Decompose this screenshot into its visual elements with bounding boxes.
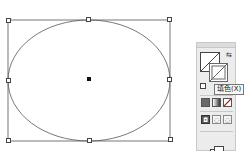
divider [200, 131, 233, 132]
handle-middle-right[interactable] [167, 77, 172, 82]
handle-top-center[interactable] [86, 17, 91, 22]
change-screen-mode-icon[interactable] [210, 141, 224, 151]
handle-middle-left[interactable] [6, 78, 11, 83]
divider [200, 95, 233, 96]
handle-bottom-right[interactable] [168, 137, 173, 142]
ellipse-shape[interactable] [0, 0, 190, 151]
draw-normal-button[interactable]: ◘ [201, 115, 210, 124]
panel-header [197, 43, 235, 48]
swap-fill-stroke-icon[interactable]: ⇆ [226, 51, 232, 59]
fill-tooltip: 填色(X) [214, 84, 244, 95]
handle-top-left[interactable] [6, 18, 11, 23]
artboard-canvas[interactable] [0, 0, 190, 151]
handle-bottom-center[interactable] [87, 138, 92, 143]
handle-bottom-left[interactable] [6, 138, 11, 143]
handle-top-right[interactable] [167, 17, 172, 22]
color-mode-row [201, 98, 232, 107]
divider [200, 111, 233, 112]
color-mode-button[interactable] [201, 98, 210, 107]
none-slash-icon [224, 99, 231, 106]
none-slash-icon [209, 63, 228, 82]
default-colors-icon[interactable] [200, 83, 206, 89]
center-point [87, 77, 91, 81]
gradient-mode-button[interactable] [212, 98, 221, 107]
draw-behind-button[interactable]: ◌ [212, 115, 221, 124]
none-mode-button[interactable] [223, 98, 232, 107]
tools-panel-color-section: ⇆ ◘ ◌ ◌ [196, 42, 236, 151]
draw-inside-button[interactable]: ◌ [223, 115, 232, 124]
stroke-swatch-button[interactable] [209, 63, 228, 82]
draw-mode-row: ◘ ◌ ◌ [201, 115, 232, 124]
